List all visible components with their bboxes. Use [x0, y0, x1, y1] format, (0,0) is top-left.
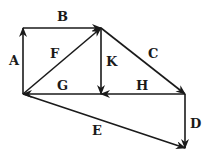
vector-e-label: E	[92, 123, 102, 138]
vector-b-label: B	[57, 9, 68, 24]
vector-g-label: G	[57, 78, 68, 93]
vector-diagram: ABCDEFGHK	[0, 0, 212, 164]
vector-e-arrow	[23, 94, 185, 148]
vector-k-label: K	[106, 54, 118, 69]
vector-a-label: A	[8, 53, 20, 68]
vector-c-label: C	[148, 46, 158, 61]
vector-d-label: D	[190, 116, 201, 131]
vector-h-label: H	[136, 78, 148, 93]
vector-f-label: F	[50, 46, 60, 61]
